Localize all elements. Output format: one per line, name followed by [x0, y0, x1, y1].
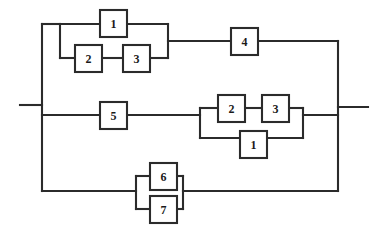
block-b1-label-1[interactable]: 1 [100, 10, 127, 37]
block-b9-label-6[interactable]: 6 [150, 163, 177, 190]
block-label-b10: 7 [161, 203, 167, 217]
block-label-b1: 1 [111, 17, 117, 31]
block-label-b2: 2 [86, 52, 92, 66]
wire-layer [20, 24, 368, 209]
block-label-b3: 3 [134, 52, 140, 66]
block-b8-label-1[interactable]: 1 [240, 131, 267, 158]
diagram-canvas: 1234523167 [0, 0, 387, 237]
block-b4-label-4[interactable]: 4 [231, 28, 258, 55]
block-label-b5: 5 [111, 109, 117, 123]
block-label-b4: 4 [242, 35, 248, 49]
block-b3-label-3[interactable]: 3 [123, 45, 150, 72]
reliability-block-diagram: 1234523167 [0, 0, 387, 237]
block-b10-label-7[interactable]: 7 [150, 196, 177, 223]
block-b7-label-3[interactable]: 3 [262, 95, 289, 122]
block-label-b7: 3 [273, 102, 279, 116]
block-b6-label-2[interactable]: 2 [218, 95, 245, 122]
block-label-b9: 6 [161, 170, 167, 184]
block-label-b8: 1 [251, 138, 257, 152]
block-label-b6: 2 [229, 102, 235, 116]
block-b5-label-5[interactable]: 5 [100, 102, 127, 129]
block-b2-label-2[interactable]: 2 [75, 45, 102, 72]
